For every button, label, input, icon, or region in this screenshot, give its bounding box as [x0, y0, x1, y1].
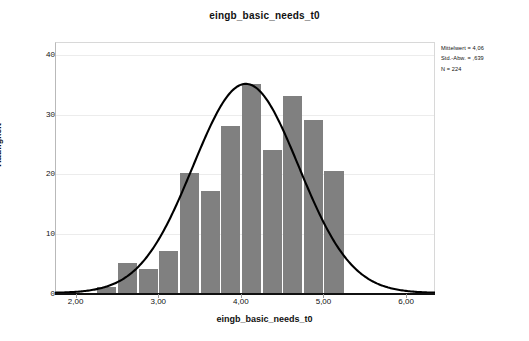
- x-tick-mark: [158, 294, 159, 298]
- x-tick-label: 4,00: [233, 297, 249, 306]
- x-tick-label: 6,00: [398, 297, 414, 306]
- y-tick-label: 30: [21, 110, 55, 119]
- plot-area: [55, 42, 435, 294]
- y-tick-label: 20: [21, 169, 55, 178]
- y-tick-label: 40: [21, 50, 55, 59]
- x-tick-label: 5,00: [316, 297, 332, 306]
- x-tick-mark: [406, 294, 407, 298]
- histogram-bar: [263, 150, 282, 293]
- histogram-bar: [242, 84, 261, 293]
- x-tick-label: 3,00: [150, 297, 166, 306]
- histogram-bar: [201, 191, 220, 293]
- histogram-bar: [221, 126, 240, 293]
- histogram-bar: [283, 96, 302, 293]
- x-axis-baseline: [55, 293, 435, 295]
- x-tick-mark: [76, 294, 77, 298]
- x-axis-label: eingb_basic_needs_t0: [0, 314, 529, 324]
- histogram-bar: [180, 173, 199, 293]
- chart-title: eingb_basic_needs_t0: [0, 10, 529, 21]
- y-tick-label: 0: [21, 289, 55, 298]
- stat-sd: Std.-Abw. = ,639: [441, 53, 521, 63]
- x-tick-mark: [323, 294, 324, 298]
- y-tick-label: 10: [21, 229, 55, 238]
- y-axis-label: Häufigkeit: [0, 123, 3, 167]
- histogram-bar: [159, 251, 178, 293]
- histogram-bar: [139, 269, 158, 293]
- histogram-bar: [118, 263, 137, 293]
- x-tick-mark: [241, 294, 242, 298]
- stat-n: N = 224: [441, 64, 521, 74]
- histogram-chart: eingb_basic_needs_t0 Mittelwert = 4,06 S…: [0, 0, 529, 341]
- histogram-bar: [324, 171, 343, 294]
- y-axis: 010203040: [12, 0, 55, 341]
- x-tick-label: 2,00: [68, 297, 84, 306]
- statistics-box: Mittelwert = 4,06 Std.-Abw. = ,639 N = 2…: [441, 43, 521, 74]
- histogram-bar: [304, 120, 323, 293]
- stat-mean: Mittelwert = 4,06: [441, 43, 521, 53]
- y-gridline: [56, 55, 434, 56]
